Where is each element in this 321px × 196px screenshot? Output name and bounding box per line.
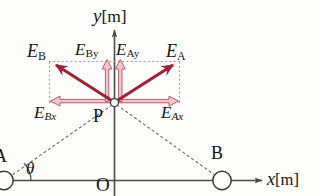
physics-diagram-canvas: y[m] x[m] O P A B θ EB EA EBy EAy EBx EA…	[0, 0, 321, 196]
vector-E_B-label-sub: B	[38, 49, 46, 63]
point-A-marker	[0, 171, 13, 189]
vector-E_Ax-label-sub: Ax	[171, 110, 183, 122]
origin-label: O	[96, 175, 110, 194]
vector-E_Ax-label-symbol: E	[161, 103, 171, 122]
vector-E_Bx-shape	[51, 96, 114, 106]
x-axis-label: x[m]	[267, 170, 299, 189]
vector-E_A-label-sub: A	[177, 49, 186, 63]
vector-E_Ax-label: EAx	[161, 104, 183, 123]
point-P-marker	[111, 99, 119, 107]
vector-E_A-label-symbol: E	[166, 41, 177, 61]
point-P-label: P	[93, 107, 103, 125]
vector-diagram-svg	[0, 0, 321, 196]
vector-E_B-label-symbol: E	[27, 41, 38, 61]
vector-E_Bx-label-sub: Bx	[44, 110, 56, 122]
angle-theta-label: θ	[26, 160, 34, 177]
vector-E_Ay-label: EAy	[116, 41, 139, 60]
x-axis-label-unit: [m]	[275, 170, 299, 189]
vector-E_By-label: EBy	[75, 41, 99, 60]
y-axis-label-unit: [m]	[101, 6, 126, 26]
point-A-label: A	[0, 147, 7, 165]
vector-E_Bx	[51, 96, 114, 106]
vector-E_B-label: EB	[27, 42, 46, 62]
vector-E_A-arrow	[115, 65, 173, 102]
vector-E_By-label-sub: By	[85, 47, 99, 59]
vector-E_By-label-symbol: E	[75, 40, 85, 59]
vector-E_Bx-label-symbol: E	[34, 103, 44, 122]
vector-E_Ay-label-symbol: E	[116, 40, 126, 59]
point-B-label: B	[211, 144, 223, 162]
vector-E_Ay-label-sub: Ay	[126, 47, 139, 59]
x-axis-label-symbol: x	[267, 169, 275, 189]
y-axis-label: y[m]	[93, 6, 127, 25]
point-B-marker	[213, 171, 231, 189]
vector-E_A-label: EA	[166, 42, 186, 62]
vector-E_Bx-label: EBx	[34, 104, 56, 123]
